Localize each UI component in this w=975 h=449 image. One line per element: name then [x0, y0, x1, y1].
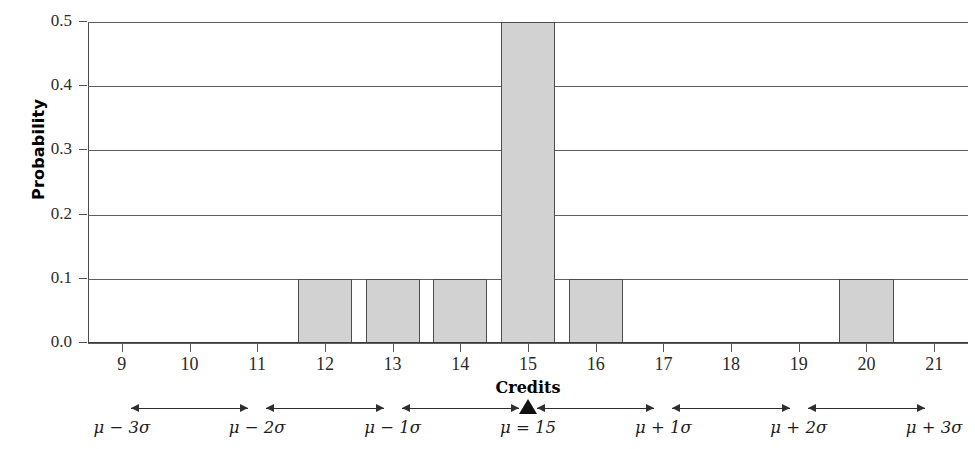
sigma-axis-label: μ + 1σ: [588, 418, 738, 437]
probability-distribution-chart: Probability 0.00.10.20.30.40.5 910111213…: [0, 0, 975, 449]
arrow-head-left-icon: [402, 404, 410, 412]
x-axis-tick-mark: [528, 343, 529, 352]
x-axis-tick-label: 13: [368, 354, 418, 375]
arrow-head-right-icon: [646, 404, 654, 412]
bar: [501, 22, 555, 343]
mean-marker-triangle-icon: [519, 399, 537, 414]
arrow-head-left-icon: [808, 404, 816, 412]
x-axis-tick-label: 21: [909, 354, 959, 375]
arrow-head-left-icon: [131, 404, 139, 412]
y-axis-tick-mark: [79, 21, 87, 22]
x-axis-tick-mark: [460, 343, 461, 352]
x-axis-tick-label: 20: [841, 354, 891, 375]
x-axis-tick-mark: [257, 343, 258, 352]
x-axis-tick-mark: [325, 343, 326, 352]
y-axis-tick-label: 0.0: [26, 332, 72, 352]
y-axis-tick-mark: [79, 342, 87, 343]
y-axis-tick-mark: [79, 85, 87, 86]
y-axis-tick-mark: [79, 278, 87, 279]
sigma-axis-label: μ − 1σ: [318, 418, 468, 437]
y-axis-tick-label: 0.1: [26, 268, 72, 288]
x-axis-tick-mark: [934, 343, 935, 352]
sigma-axis-label: μ − 2σ: [182, 418, 332, 437]
arrow-head-left-icon: [537, 404, 545, 412]
x-axis-tick-label: 16: [571, 354, 621, 375]
y-axis-tick-label: 0.2: [26, 204, 72, 224]
x-axis-tick-mark: [190, 343, 191, 352]
sigma-interval-arrow: [266, 408, 383, 409]
x-axis-tick-label: 17: [638, 354, 688, 375]
arrow-head-left-icon: [672, 404, 680, 412]
x-axis-title: Credits: [428, 378, 628, 397]
sigma-interval-arrow: [808, 408, 925, 409]
arrow-head-right-icon: [376, 404, 384, 412]
bar: [839, 279, 893, 343]
x-axis-tick-mark: [663, 343, 664, 352]
x-axis-tick-label: 18: [706, 354, 756, 375]
x-axis-tick-label: 15: [503, 354, 553, 375]
x-axis-tick-label: 12: [300, 354, 350, 375]
bar: [569, 279, 623, 343]
bar: [433, 279, 487, 343]
y-axis-tick-mark: [79, 214, 87, 215]
x-axis-tick-label: 19: [774, 354, 824, 375]
y-axis-tick-mark: [79, 149, 87, 150]
arrow-head-right-icon: [917, 404, 925, 412]
x-axis-tick-label: 14: [435, 354, 485, 375]
x-axis-tick-mark: [799, 343, 800, 352]
sigma-axis-label: μ − 3σ: [47, 418, 197, 437]
x-axis-tick-mark: [731, 343, 732, 352]
x-axis-tick-mark: [393, 343, 394, 352]
y-axis-tick-label: 0.5: [26, 11, 72, 31]
arrow-head-right-icon: [782, 404, 790, 412]
plot-area: [88, 22, 968, 343]
sigma-axis-label: μ + 2σ: [724, 418, 874, 437]
y-axis-tick-label: 0.4: [26, 75, 72, 95]
bar: [366, 279, 420, 343]
arrow-head-right-icon: [511, 404, 519, 412]
x-axis-tick-label: 9: [97, 354, 147, 375]
sigma-interval-arrow: [672, 408, 789, 409]
x-axis-tick-mark: [866, 343, 867, 352]
bar: [298, 279, 352, 343]
arrow-head-right-icon: [240, 404, 248, 412]
arrow-head-left-icon: [266, 404, 274, 412]
sigma-axis-label: μ = 15: [453, 418, 603, 437]
x-axis-tick-label: 10: [165, 354, 215, 375]
sigma-axis-label: μ + 3σ: [859, 418, 975, 437]
sigma-interval-arrow: [402, 408, 519, 409]
sigma-interval-arrow: [537, 408, 654, 409]
x-axis-tick-label: 11: [232, 354, 282, 375]
y-axis-line: [88, 22, 89, 343]
y-axis-tick-label: 0.3: [26, 139, 72, 159]
x-axis-tick-mark: [122, 343, 123, 352]
sigma-interval-arrow: [131, 408, 248, 409]
x-axis-tick-mark: [596, 343, 597, 352]
